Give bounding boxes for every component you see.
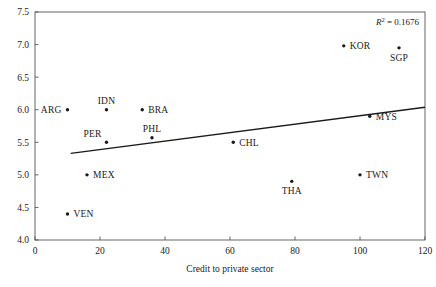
- x-tick-label: 100: [353, 246, 368, 256]
- data-point: CHL: [232, 138, 259, 148]
- x-tick-label: 60: [225, 246, 235, 256]
- data-point: IDN: [98, 96, 116, 112]
- data-point-label: TWN: [366, 170, 388, 180]
- y-tick-label: 6.5: [17, 73, 29, 83]
- data-point: VEN: [66, 209, 94, 219]
- data-point: PHL: [143, 124, 162, 140]
- scatter-chart: 0204060801001204.04.55.05.56.06.57.07.5A…: [0, 0, 436, 287]
- y-tick-label: 4.0: [17, 235, 29, 245]
- data-point-marker: [150, 136, 153, 139]
- r-squared-annotation: R2 = 0.1676: [375, 16, 420, 28]
- data-point-label: THA: [282, 186, 302, 196]
- x-tick-label: 80: [290, 246, 300, 256]
- data-point-label: VEN: [74, 209, 94, 219]
- data-point-marker: [141, 108, 144, 111]
- data-point-marker: [342, 44, 345, 47]
- data-point-marker: [66, 108, 69, 111]
- data-point-label: CHL: [239, 138, 259, 148]
- data-point: TWN: [358, 170, 388, 180]
- x-axis-title: Credit to private sector: [186, 264, 274, 274]
- data-point: MEX: [85, 170, 114, 180]
- data-point-marker: [105, 108, 108, 111]
- data-point-marker: [368, 115, 371, 118]
- data-point-label: ARG: [41, 105, 62, 115]
- data-point: MYS: [368, 112, 397, 122]
- x-tick-label: 40: [160, 246, 170, 256]
- data-point-marker: [358, 173, 361, 176]
- data-point: ARG: [41, 105, 69, 115]
- y-tick-label: 6.0: [17, 105, 29, 115]
- data-point-label: IDN: [98, 96, 116, 106]
- r-squared-value: = 0.1676: [385, 17, 420, 27]
- y-tick-label: 4.5: [17, 203, 29, 213]
- plot-area: 0204060801001204.04.55.05.56.06.57.07.5A…: [0, 0, 436, 287]
- y-tick-label: 7.5: [17, 7, 29, 17]
- y-tick-label: 5.5: [17, 138, 29, 148]
- data-point-marker: [290, 180, 293, 183]
- data-point: PER: [83, 129, 108, 144]
- data-point-marker: [105, 141, 108, 144]
- x-tick-label: 120: [418, 246, 433, 256]
- data-point-label: BRA: [148, 105, 168, 115]
- data-point-marker: [232, 141, 235, 144]
- x-tick-label: 20: [95, 246, 105, 256]
- data-point-marker: [66, 212, 69, 215]
- data-point: KOR: [342, 41, 371, 51]
- data-point-marker: [397, 46, 400, 49]
- y-tick-label: 7.0: [17, 40, 29, 50]
- data-point: THA: [282, 180, 302, 197]
- x-tick-label: 0: [33, 246, 38, 256]
- data-point-label: PHL: [143, 124, 162, 134]
- data-point-label: PER: [83, 129, 101, 139]
- data-point-label: MEX: [93, 170, 115, 180]
- data-point: SGP: [390, 46, 408, 63]
- data-point-label: MYS: [376, 112, 397, 122]
- y-tick-label: 5.0: [17, 170, 29, 180]
- data-point-label: SGP: [390, 53, 408, 63]
- data-point-label: KOR: [350, 41, 371, 51]
- data-point: BRA: [141, 105, 169, 115]
- data-point-marker: [85, 173, 88, 176]
